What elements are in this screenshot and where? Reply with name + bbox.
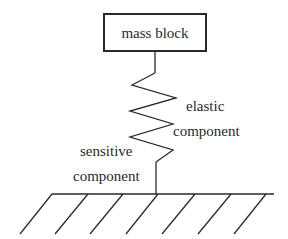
sensitive-label-line1: sensitive (80, 143, 133, 159)
spring-zigzag (130, 73, 176, 162)
spring-mass-diagram: mass block elastic component sensitive c… (0, 0, 288, 239)
elastic-label-line1: elastic (186, 98, 225, 114)
sensitive-label-line2: component (73, 168, 140, 184)
elastic-label-line2: component (173, 123, 240, 139)
mass-block-label: mass block (121, 25, 189, 41)
ground-hatching (20, 194, 266, 234)
